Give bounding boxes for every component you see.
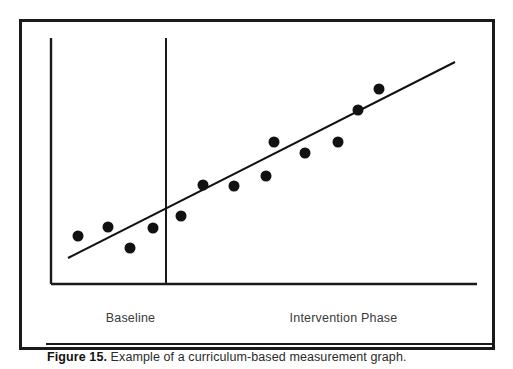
trend-line xyxy=(68,62,455,258)
data-point xyxy=(73,231,84,242)
data-point xyxy=(148,223,159,234)
data-point xyxy=(300,148,311,159)
figure-caption-text: Example of a curriculum-based measuremen… xyxy=(107,350,406,364)
figure-caption-label: Figure 15. xyxy=(47,350,107,364)
data-point xyxy=(333,137,344,148)
figure-frame: Baseline Intervention Phase Figure 15. E… xyxy=(19,19,495,350)
data-point xyxy=(103,222,114,233)
caption-divider xyxy=(46,343,492,345)
data-point xyxy=(261,171,272,182)
data-point xyxy=(176,211,187,222)
data-point xyxy=(198,180,209,191)
baseline-phase-label: Baseline xyxy=(73,311,188,325)
data-point xyxy=(269,137,280,148)
chart-svg xyxy=(22,22,492,347)
data-point xyxy=(229,181,240,192)
figure-caption: Figure 15. Example of a curriculum-based… xyxy=(47,350,497,364)
figure-page: Baseline Intervention Phase Figure 15. E… xyxy=(0,0,513,369)
data-point xyxy=(353,105,364,116)
data-point xyxy=(125,243,136,254)
intervention-phase-label: Intervention Phase xyxy=(188,311,499,325)
chart-plot-area xyxy=(22,22,492,347)
data-point xyxy=(374,84,385,95)
